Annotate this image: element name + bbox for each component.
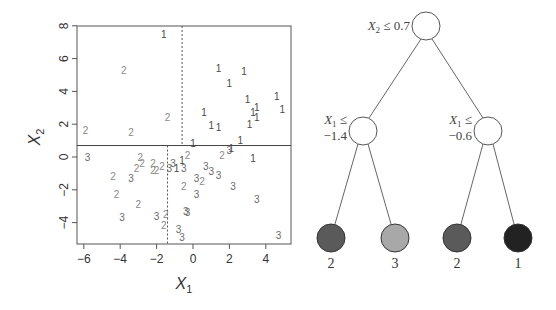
point-class-2: 2 <box>139 158 145 169</box>
point-class-3: 3 <box>154 211 160 222</box>
point-class-3: 3 <box>119 212 125 223</box>
right-split-label-line2: −0.6 <box>448 128 472 143</box>
y-tick-label: 2 <box>57 121 71 128</box>
point-class-1: 1 <box>190 138 196 149</box>
leaf-node <box>443 224 471 252</box>
point-class-2: 2 <box>185 150 191 161</box>
point-class-2: 2 <box>163 209 169 220</box>
data-points: 1211111111112221111132222222331123231133… <box>83 29 286 243</box>
tree-leaves: 2321 <box>317 224 532 271</box>
point-class-1: 1 <box>250 153 256 164</box>
x-axis-title: X1 <box>175 275 193 295</box>
point-class-1: 1 <box>274 91 280 102</box>
point-class-1: 1 <box>228 143 234 154</box>
point-class-2: 2 <box>83 125 89 136</box>
y-tick-label: −4 <box>57 215 71 229</box>
point-class-1: 1 <box>227 78 233 89</box>
point-class-2: 2 <box>161 220 167 231</box>
point-class-1: 1 <box>208 120 214 131</box>
x-tick-label: 2 <box>226 252 233 266</box>
point-class-2: 2 <box>219 150 225 161</box>
point-class-3: 3 <box>216 170 222 181</box>
left-split-label-line2: −1.4 <box>323 128 347 143</box>
leaf-class-label: 2 <box>454 256 461 271</box>
figure: −6−4−2024 −4−202468 12111111111122211111… <box>0 0 556 310</box>
point-class-2: 2 <box>121 65 127 76</box>
point-class-2: 2 <box>181 181 187 192</box>
y-tick-label: 8 <box>57 22 71 29</box>
root-split-label: X2 ≤ 0.7 <box>367 18 411 35</box>
left-split-label-line1: X1 ≤ <box>323 112 347 129</box>
leaf-class-label: 1 <box>515 256 522 271</box>
x-tick-label: −2 <box>150 252 164 266</box>
point-class-3: 3 <box>179 232 185 243</box>
point-class-1: 1 <box>254 112 260 123</box>
tree-node-root <box>412 12 440 40</box>
point-class-1: 1 <box>216 122 222 133</box>
point-class-1: 1 <box>279 104 285 115</box>
x-tick-label: −4 <box>113 252 127 266</box>
point-class-3: 3 <box>85 152 91 163</box>
scatter-plot: −6−4−2024 −4−202468 12111111111122211111… <box>26 22 291 295</box>
point-class-3: 3 <box>194 189 200 200</box>
x-tick-label: 4 <box>262 252 269 266</box>
x-tick-label: −6 <box>77 252 91 266</box>
y-tick-label: 6 <box>57 55 71 62</box>
point-class-1: 1 <box>201 107 207 118</box>
right-split-label-line1: X1 ≤ <box>448 112 472 129</box>
point-class-3: 3 <box>208 166 214 177</box>
tree-node-right <box>474 117 502 145</box>
y-tick-label: −2 <box>57 183 71 197</box>
point-class-3: 3 <box>254 194 260 205</box>
point-class-1: 1 <box>238 135 244 146</box>
x-axis: −6−4−2024 <box>77 244 269 266</box>
point-class-2: 2 <box>134 163 140 174</box>
leaf-node <box>504 224 532 252</box>
point-class-3: 3 <box>128 173 134 184</box>
leaf-class-label: 3 <box>392 256 399 271</box>
point-class-1: 1 <box>241 66 247 77</box>
point-class-3: 3 <box>181 163 187 174</box>
leaf-node <box>317 224 345 252</box>
tree-node-left <box>349 117 377 145</box>
point-class-3: 3 <box>276 230 282 241</box>
decision-tree: X2 ≤ 0.7 X1 ≤ −1.4 X1 ≤ −0.6 2321 <box>317 12 532 271</box>
point-class-3: 3 <box>185 207 191 218</box>
point-class-2: 2 <box>199 176 205 187</box>
point-class-3: 3 <box>230 181 236 192</box>
point-class-1: 1 <box>245 94 251 105</box>
point-class-1: 1 <box>216 63 222 74</box>
point-class-2: 2 <box>114 189 120 200</box>
point-class-2: 2 <box>136 199 142 210</box>
point-class-2: 2 <box>110 171 116 182</box>
point-class-2: 2 <box>159 161 165 172</box>
point-class-1: 1 <box>247 119 253 130</box>
leaf-class-label: 2 <box>328 256 335 271</box>
y-axis: −4−202468 <box>57 22 77 229</box>
y-tick-label: 4 <box>57 88 71 95</box>
leaf-node <box>381 224 409 252</box>
y-axis-title: X2 <box>26 129 46 147</box>
point-class-1: 1 <box>161 29 167 40</box>
y-tick-label: 0 <box>57 153 71 160</box>
point-class-2: 2 <box>128 127 134 138</box>
point-class-2: 2 <box>165 112 171 123</box>
x-tick-label: 0 <box>190 252 197 266</box>
